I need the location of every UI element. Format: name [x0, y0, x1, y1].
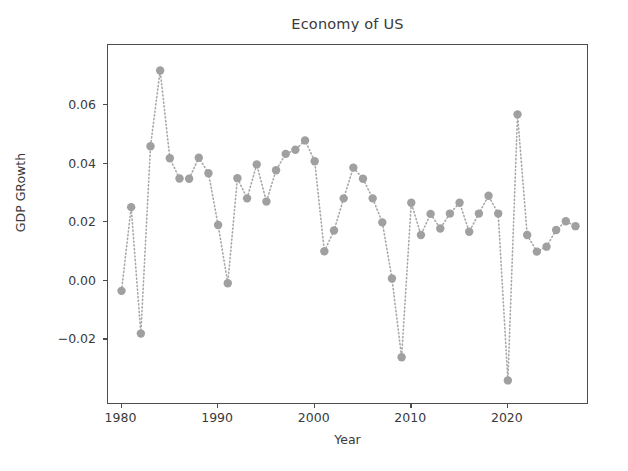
- data-point: [504, 376, 512, 384]
- data-point: [533, 247, 541, 255]
- data-point: [310, 157, 318, 165]
- y-axis-tick-label: 0.06: [68, 97, 96, 112]
- data-point: [465, 228, 473, 236]
- data-point: [253, 160, 261, 168]
- data-point: [262, 197, 270, 205]
- data-point: [359, 175, 367, 183]
- x-axis-tick-label: 1990: [201, 410, 233, 425]
- data-point: [233, 174, 241, 182]
- data-point: [330, 226, 338, 234]
- x-axis-tick-label: 1980: [105, 410, 137, 425]
- data-point: [552, 226, 560, 234]
- data-point: [494, 209, 502, 217]
- data-point: [523, 231, 531, 239]
- data-point: [397, 353, 405, 361]
- data-point: [455, 199, 463, 207]
- data-point: [175, 174, 183, 182]
- data-point: [117, 287, 125, 295]
- data-point: [368, 194, 376, 202]
- data-series-gdp-growth: [108, 45, 589, 405]
- matplotlib-figure: Economy of US −0.020.000.020.040.06 1980…: [0, 0, 628, 471]
- data-point: [446, 209, 454, 217]
- data-point: [542, 242, 550, 250]
- data-point: [137, 329, 145, 337]
- data-point: [562, 217, 570, 225]
- data-point: [146, 142, 154, 150]
- data-point: [185, 175, 193, 183]
- data-point: [156, 66, 164, 74]
- data-point: [291, 146, 299, 154]
- data-point: [282, 150, 290, 158]
- data-point: [426, 210, 434, 218]
- data-point: [301, 136, 309, 144]
- data-point: [214, 221, 222, 229]
- data-point: [320, 247, 328, 255]
- x-axis-tick-label: 2000: [298, 410, 330, 425]
- x-axis-tick-label: 2010: [394, 410, 426, 425]
- y-axis-tick-label: 0.00: [68, 272, 96, 287]
- data-point: [388, 274, 396, 282]
- x-axis-tick-label: 2020: [491, 410, 523, 425]
- plot-area: [107, 44, 588, 404]
- y-axis-tick-label: 0.04: [68, 155, 96, 170]
- data-point: [272, 166, 280, 174]
- data-point: [475, 209, 483, 217]
- data-point: [513, 110, 521, 118]
- data-point: [127, 203, 135, 211]
- data-point: [571, 222, 579, 230]
- data-point: [195, 153, 203, 161]
- y-axis-label: GDP GRowth: [13, 113, 28, 273]
- series-markers-gdp-growth: [117, 66, 579, 384]
- data-point: [204, 169, 212, 177]
- data-point: [224, 279, 232, 287]
- y-axis-tick-label: 0.02: [68, 214, 96, 229]
- data-point: [339, 194, 347, 202]
- data-point: [166, 154, 174, 162]
- data-point: [436, 224, 444, 232]
- series-line-gdp-growth: [122, 70, 576, 380]
- y-axis-tick-label: −0.02: [58, 331, 96, 346]
- data-point: [484, 192, 492, 200]
- data-point: [378, 218, 386, 226]
- data-point: [349, 163, 357, 171]
- x-axis-label: Year: [107, 432, 588, 447]
- chart-title: Economy of US: [107, 16, 588, 32]
- data-point: [417, 231, 425, 239]
- data-point: [407, 199, 415, 207]
- data-point: [243, 194, 251, 202]
